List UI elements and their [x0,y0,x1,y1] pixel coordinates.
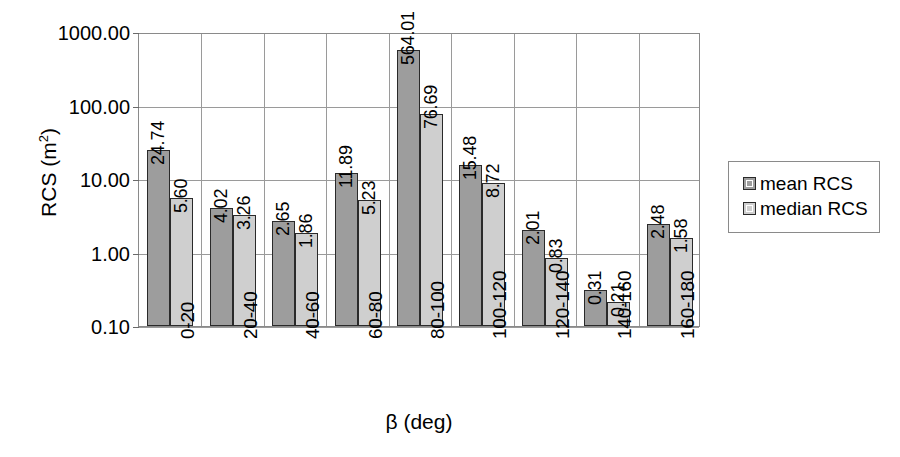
gridline-vertical [451,34,452,326]
y-axis-tickmark [133,33,139,34]
x-axis-tick-label: 0-20 [178,302,197,339]
x-axis-tick-label: 20-40 [241,291,260,339]
bar-value-label: 4.02 [212,189,230,223]
bar-mean [272,221,295,326]
legend-item-median[interactable]: median RCS [729,196,879,221]
x-axis-tick-label: 80-100 [428,281,447,339]
chart-legend: mean RCSmedian RCS [728,161,880,233]
bar-mean [459,165,482,326]
y-axis-tickmark [133,180,139,181]
bar-value-label: 24.74 [149,121,167,165]
y-axis-tick-label: 0.10 [10,317,130,337]
bar-value-label: 15.48 [461,136,479,180]
legend-item-label: median RCS [760,199,868,218]
x-axis-tick-label: 120-140 [553,271,572,339]
gridline-vertical [576,34,577,326]
bar-mean [335,173,358,326]
gridline-vertical [201,34,202,326]
x-axis-tick-label: 140-160 [615,271,634,339]
bar-value-label: 564.01 [399,11,417,65]
legend-swatch-icon [743,202,756,215]
y-axis-tickmark [133,107,139,108]
gridline-vertical [639,34,640,326]
bar-value-label: 2.01 [524,211,542,245]
bar-value-label: 0.31 [586,271,604,305]
legend-item-label: mean RCS [760,174,853,193]
bar-mean [147,150,170,326]
bar-value-label: 0.83 [547,239,565,273]
gridline-vertical [326,34,327,326]
bar-mean [397,50,420,326]
bar-value-label: 5.60 [172,178,190,212]
bar-value-label: 2.65 [274,202,292,236]
x-axis-tick-label: 160-180 [678,271,697,339]
gridline-vertical [389,34,390,326]
bar-value-label: 11.89 [337,146,355,189]
y-axis-tick-label: 100.00 [10,97,130,117]
bar-value-label: 1.58 [672,219,690,253]
x-axis-tick-label: 40-60 [303,291,322,339]
bar-value-label: 8.72 [484,164,502,198]
y-axis-tick-label: 10.00 [10,170,130,190]
bar-value-label: 2.48 [649,204,667,238]
bar-value-label: 5.23 [360,180,378,214]
rcs-bar-chart: RCS (m2) 1000.00100.0010.001.000.10 24.7… [0,0,900,457]
x-axis-title: β (deg) [138,410,700,434]
legend-swatch-icon [743,177,756,190]
gridline-vertical [514,34,515,326]
y-axis-tickmark [133,327,139,328]
bar-value-label: 3.26 [235,196,253,230]
x-axis-tick-label: 60-80 [366,291,385,339]
y-axis-tickmark [133,254,139,255]
y-axis-tick-labels: 1000.00100.0010.001.000.10 [8,0,130,457]
gridline-vertical [264,34,265,326]
x-axis-tick-label: 100-120 [490,271,509,339]
bar-value-label: 1.86 [297,213,315,247]
legend-item-mean[interactable]: mean RCS [729,171,879,196]
bar-value-label: 76.69 [422,85,440,129]
y-axis-tick-label: 1000.00 [10,23,130,43]
y-axis-tick-label: 1.00 [10,244,130,264]
bar-mean [210,208,233,326]
